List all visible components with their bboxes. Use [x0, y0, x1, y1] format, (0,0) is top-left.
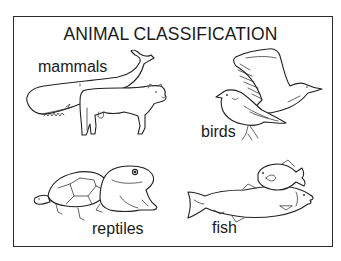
turtle-icon: [34, 172, 106, 220]
frog-icon: [96, 166, 157, 212]
label-reptiles: reptiles: [92, 221, 144, 237]
sunfish-icon: [258, 160, 305, 190]
label-mammals: mammals: [38, 59, 107, 75]
cow-icon: [80, 84, 166, 135]
label-fish: fish: [212, 220, 237, 236]
salmon-icon: [188, 184, 313, 222]
animal-illustrations: [0, 0, 341, 261]
label-birds: birds: [201, 124, 236, 140]
